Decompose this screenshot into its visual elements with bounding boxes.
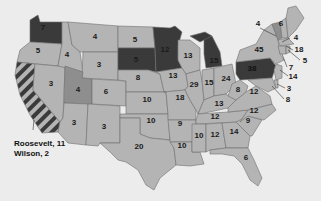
label-ks: 10 (143, 95, 152, 104)
label-al: 12 (211, 130, 220, 139)
label-me: 6 (279, 19, 284, 28)
label-sd: 5 (134, 55, 139, 64)
label-il: 29 (190, 80, 199, 89)
label-la: 10 (178, 141, 187, 150)
label-mn: 12 (161, 45, 170, 54)
label-mt: 4 (93, 32, 98, 41)
label-ga: 14 (230, 127, 239, 136)
label-wv: 8 (236, 85, 241, 94)
label-ut: 4 (76, 85, 81, 94)
state-fl[interactable] (210, 148, 262, 186)
label-pa: 38 (248, 64, 257, 73)
label-ma: 18 (295, 45, 304, 54)
label-id: 4 (65, 50, 70, 59)
label-ar: 9 (178, 119, 183, 128)
label-in: 15 (205, 78, 214, 87)
california-split-note: Roosevelt, 11 Wilson, 2 (14, 139, 65, 159)
label-md: 8 (286, 95, 291, 104)
label-sc: 9 (246, 116, 251, 125)
label-mi: 15 (210, 56, 219, 65)
label-de: 3 (287, 84, 292, 93)
roosevelt-california-votes: Roosevelt, 11 (14, 139, 65, 149)
label-co: 6 (104, 87, 109, 96)
label-nh: 4 (294, 33, 299, 42)
label-tn: 12 (211, 112, 220, 121)
label-vt: 4 (256, 19, 261, 28)
label-nv: 3 (49, 79, 54, 88)
label-ky: 13 (215, 99, 224, 108)
us-electoral-map: 7 5 4 4 5 5 12 3 3 4 6 8 10 10 3 3 20 13… (0, 0, 321, 201)
label-ri: 5 (303, 56, 308, 65)
label-nm: 3 (102, 122, 107, 131)
label-nc: 12 (250, 106, 259, 115)
state-nj[interactable] (274, 64, 282, 80)
label-wa: 7 (41, 23, 46, 32)
label-wi: 13 (184, 51, 193, 60)
label-oh: 24 (222, 74, 231, 83)
label-ne: 8 (136, 73, 141, 82)
state-ma[interactable] (278, 38, 294, 46)
label-ok: 10 (147, 116, 156, 125)
label-mo: 18 (176, 93, 185, 102)
label-fl: 6 (244, 153, 249, 162)
label-or: 5 (36, 46, 41, 55)
label-az: 3 (72, 118, 77, 127)
label-ia: 13 (169, 71, 178, 80)
label-nd: 5 (133, 35, 138, 44)
state-wa[interactable] (30, 15, 62, 44)
label-ny: 45 (255, 45, 264, 54)
label-tx: 20 (135, 142, 144, 151)
label-nj: 14 (289, 72, 298, 81)
label-ms: 10 (195, 131, 204, 140)
label-ct: 7 (289, 63, 294, 72)
label-wy: 3 (97, 60, 102, 69)
label-va: 12 (250, 87, 259, 96)
wilson-california-votes: Wilson, 2 (14, 149, 65, 159)
state-co[interactable] (92, 79, 126, 106)
